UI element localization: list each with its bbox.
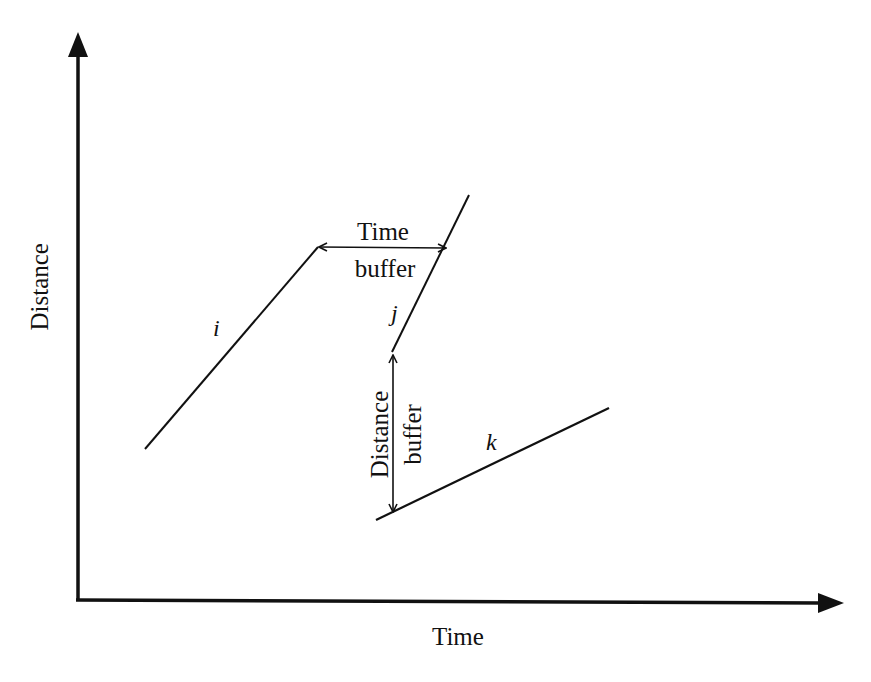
time-buffer-label-line1: Time — [348, 219, 418, 244]
trajectory-i-label: i — [213, 316, 220, 340]
y-axis-label: Distance — [27, 249, 52, 331]
trajectory-k-label: k — [486, 430, 497, 454]
x-axis-label: Time — [432, 624, 484, 649]
x-axis — [76, 593, 844, 613]
x-axis-arrowhead-icon — [818, 593, 844, 613]
time-buffer-label-line2: buffer — [345, 256, 425, 281]
trajectory-i — [145, 247, 318, 449]
y-axis-arrowhead-icon — [68, 32, 88, 57]
time-buffer-arrow — [319, 247, 446, 248]
time-distance-diagram — [0, 0, 871, 682]
y-axis — [68, 32, 88, 601]
distance-buffer-label-line1: Distance — [367, 390, 392, 480]
distance-buffer-label-line2: buffer — [400, 395, 425, 475]
trajectory-j-label: j — [391, 301, 398, 325]
